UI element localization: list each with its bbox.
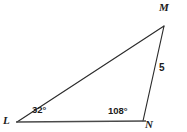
vertex-label-l: L bbox=[3, 115, 10, 126]
angle-measure-l: 32° bbox=[32, 105, 46, 115]
side-length-mn: 5 bbox=[159, 63, 165, 73]
vertex-label-m: M bbox=[159, 2, 169, 13]
segment-LN bbox=[16, 121, 146, 122]
vertex-label-n: N bbox=[145, 119, 153, 130]
angle-measure-n: 108° bbox=[108, 106, 128, 116]
geometry-figure: M L N 32° 108° 5 bbox=[0, 0, 187, 132]
segment-MN bbox=[143, 26, 164, 121]
